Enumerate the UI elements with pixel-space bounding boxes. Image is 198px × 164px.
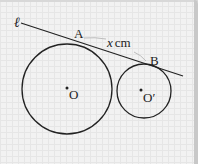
distance-brace-left: [84, 38, 106, 39]
distance-brace-right: [134, 52, 146, 61]
distance-label: xcm: [106, 35, 131, 50]
diagram-frame: ℓ A B xcm O O′: [0, 0, 198, 164]
point-b-label: B: [150, 53, 159, 68]
point-a-label: A: [74, 26, 84, 41]
distance-variable: x: [106, 35, 113, 50]
center-o-prime-label: O′: [143, 90, 155, 105]
center-o-label: O: [69, 87, 78, 102]
geometry-figure: ℓ A B xcm O O′: [0, 0, 198, 164]
distance-unit: cm: [115, 35, 131, 50]
line-label: ℓ: [14, 15, 20, 30]
